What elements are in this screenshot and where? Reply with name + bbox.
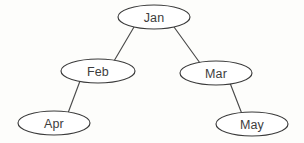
tree-node-jan[interactable]: Jan [118, 5, 190, 29]
tree-diagram: Jan Feb Mar Apr May [0, 0, 304, 143]
edge-jan-feb [114, 27, 134, 61]
tree-node-may[interactable]: May [216, 112, 288, 136]
node-label-may: May [240, 118, 265, 132]
edge-feb-apr [68, 81, 80, 113]
node-label-mar: Mar [205, 67, 227, 81]
tree-node-mar[interactable]: Mar [180, 61, 252, 85]
tree-node-feb[interactable]: Feb [61, 59, 135, 83]
edge-mar-may [230, 83, 242, 114]
edge-jan-mar [174, 27, 200, 63]
tree-nodes: Jan Feb Mar Apr May [18, 5, 288, 136]
node-label-jan: Jan [144, 11, 164, 25]
tree-node-apr[interactable]: Apr [18, 111, 90, 135]
node-label-feb: Feb [87, 65, 109, 79]
node-label-apr: Apr [44, 117, 64, 131]
tree-diagram-canvas: Jan Feb Mar Apr May [0, 0, 304, 143]
